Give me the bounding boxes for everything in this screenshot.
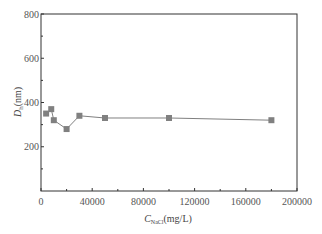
data-point-marker [166, 115, 172, 121]
y-tick-label: 800 [24, 9, 39, 20]
x-tick-label: 120000 [180, 196, 210, 207]
y-tick-label: 200 [24, 141, 39, 152]
y-tick-label: 400 [24, 97, 39, 108]
data-series [43, 106, 274, 132]
data-point-marker [102, 115, 108, 121]
data-point-marker [48, 106, 54, 112]
x-axis-label: CNaCl(mg/L) [144, 213, 192, 225]
plot-frame [41, 14, 297, 191]
data-point-marker [43, 111, 49, 117]
x-tick-label: 200000 [282, 196, 312, 207]
x-tick-label: 0 [39, 196, 44, 207]
data-point-marker [76, 113, 82, 119]
x-tick-label: 80000 [131, 196, 156, 207]
data-point-marker [51, 117, 57, 123]
y-tick-label: 600 [24, 53, 39, 64]
x-tick-label: 40000 [80, 196, 105, 207]
chart: 200400600800 040000800001200001600002000… [0, 0, 322, 234]
x-tick-label: 160000 [231, 196, 261, 207]
data-point-marker [268, 117, 274, 123]
data-point-marker [64, 126, 70, 132]
series-line [46, 109, 271, 129]
